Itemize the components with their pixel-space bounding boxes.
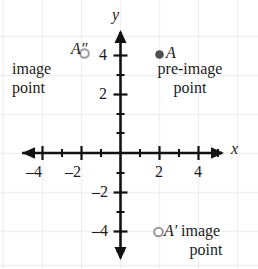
point-a-prime-label: A′ <box>164 222 177 240</box>
y-tick-label-4: 4 <box>99 46 107 64</box>
coordinate-plane-figure: y x 4 2 –2 –4 –4 –2 2 4 A pre-image poin… <box>0 0 258 269</box>
x-tick-label-neg4: –4 <box>26 163 42 181</box>
point-a-double-prime-caption-line1: image <box>12 60 98 78</box>
point-a-prime-marker <box>154 228 163 237</box>
x-tick-label-2: 2 <box>155 163 163 181</box>
y-tick-label-neg4: –4 <box>92 222 108 240</box>
y-tick-label-2: 2 <box>99 85 107 103</box>
x-tick-label-4: 4 <box>194 163 202 181</box>
x-axis-label: x <box>231 140 238 158</box>
point-a-caption-line2: point <box>140 79 240 97</box>
point-a-pre-image-marker <box>155 50 164 59</box>
y-axis-label: y <box>112 6 119 24</box>
y-axis <box>114 30 128 260</box>
y-tick-label-neg2: –2 <box>92 183 108 201</box>
point-a-double-prime-label: A″ <box>71 40 87 58</box>
x-tick-label-neg2: –2 <box>65 163 81 181</box>
x-axis-arrow-left <box>22 147 35 159</box>
x-axis <box>22 146 224 160</box>
point-a-double-prime-caption-line2: point <box>12 79 98 97</box>
point-a-caption-line1: pre-image <box>140 60 240 78</box>
y-axis-arrow-down <box>115 247 127 260</box>
point-a-prime-caption-line2: point <box>168 241 244 259</box>
point-a-prime-caption-line1: image <box>181 222 220 240</box>
